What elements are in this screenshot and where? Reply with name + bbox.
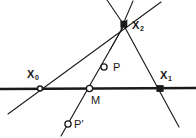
label-x2: X2 (132, 20, 144, 31)
label-x1-subscript: 1 (168, 75, 172, 82)
label-p: P (113, 62, 121, 73)
label-x2-base: X (132, 19, 140, 31)
point-marker-p-prime (65, 121, 71, 127)
label-x0: X0 (27, 69, 39, 80)
baseline-axis (0, 88, 196, 89)
point-marker-m (86, 85, 92, 91)
label-m: M (91, 95, 100, 106)
point-marker-p (101, 64, 107, 70)
label-x0-subscript: 0 (35, 74, 39, 81)
point-marker-x2 (121, 21, 127, 27)
point-marker-x1 (157, 85, 163, 91)
label-p-prime: P' (74, 119, 84, 130)
label-x1-base: X (160, 69, 168, 81)
label-x2-subscript: 2 (140, 25, 144, 32)
point-marker-x0 (38, 86, 43, 91)
label-x0-base: X (27, 68, 35, 80)
geometry-figure: X0 X1 X2 P P' M (0, 0, 196, 138)
label-x1: X1 (160, 70, 172, 81)
